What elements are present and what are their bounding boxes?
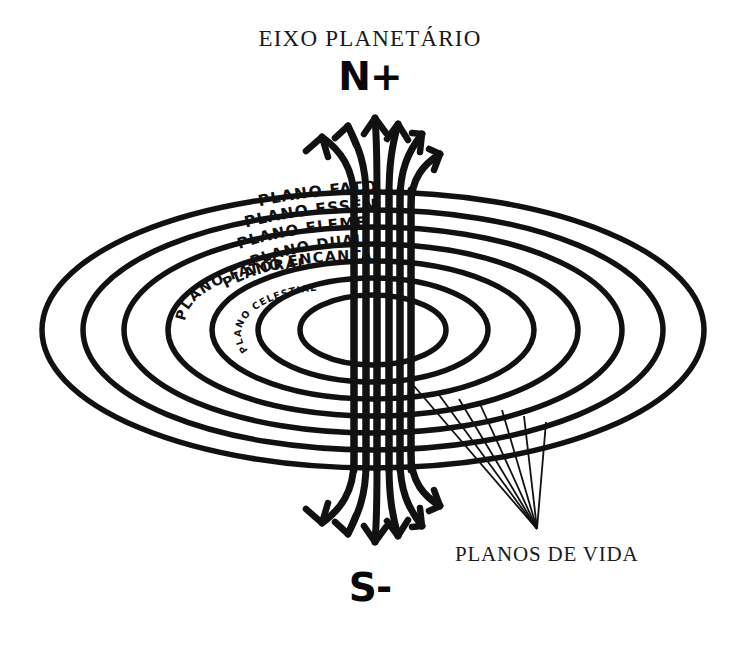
- axis-title: EIXO PLANETÁRIO: [0, 26, 740, 52]
- plane-ring: [124, 227, 622, 433]
- arrowhead-down-left: [306, 503, 328, 523]
- diagram-canvas: PLANO FATORAL PLANO ESSÊNCIAL PLANO ELEM…: [0, 0, 740, 645]
- north-pole-label: N+: [0, 54, 740, 99]
- planes-of-life-caption: PLANOS DE VIDA: [455, 542, 639, 567]
- south-pole-label: S-: [0, 565, 740, 610]
- plane-rings: [42, 192, 704, 468]
- plane-ring: [300, 295, 446, 365]
- arrowhead-up-left: [306, 137, 328, 157]
- plane-ring: [42, 192, 704, 468]
